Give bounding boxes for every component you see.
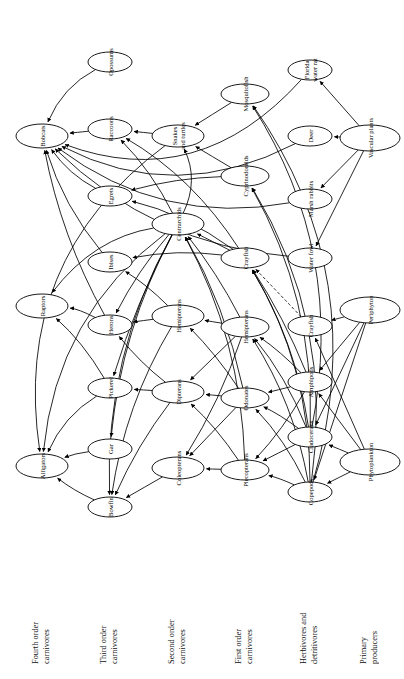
food-web-figure: BobcatsRaptorsAlligatorsOpossumsRaccoons… <box>0 0 404 679</box>
food-web-edge <box>190 407 236 455</box>
node-label: Hemipterans <box>242 310 249 344</box>
food-web-edge <box>70 308 95 317</box>
node-label: Egrets <box>107 187 114 204</box>
food-web-edge <box>253 339 308 482</box>
food-web-edge <box>134 131 153 133</box>
food-web-node[interactable]: Gar <box>88 439 132 459</box>
food-web-node[interactable]: Periphyton <box>340 295 400 325</box>
trophic-level-t1: First order carnivores <box>234 572 255 664</box>
food-web-node[interactable]: Raptors <box>16 294 68 318</box>
food-web-node[interactable]: Vascular plants <box>340 118 400 159</box>
food-web-node[interactable]: Opossums <box>88 48 132 76</box>
food-web-node[interactable]: Amphipods <box>288 366 332 397</box>
node-label: Hemipterans <box>175 299 182 333</box>
food-web-node[interactable]: Floridawater rat <box>288 58 332 81</box>
food-web-edge <box>48 396 97 452</box>
food-web-node[interactable]: Pickerel <box>88 377 132 399</box>
node-label: Pickerel <box>107 377 114 399</box>
food-web-edge <box>332 317 345 320</box>
node-label: Herons <box>107 315 114 334</box>
food-web-edge <box>133 253 222 258</box>
food-web-edge <box>196 147 232 168</box>
node-label: Raccoons <box>107 116 114 142</box>
food-web-edge <box>126 477 162 498</box>
food-web-node[interactable]: Mosquitofish <box>221 76 269 112</box>
food-web-edge <box>320 81 359 125</box>
food-web-edge <box>183 149 191 213</box>
trophic-level-hd: Herbivores and detritivores <box>299 572 320 664</box>
food-web-edge <box>328 472 351 483</box>
food-web-edge <box>119 337 165 383</box>
food-web-edge <box>321 150 358 188</box>
node-label: Coleopterans <box>175 450 182 485</box>
node-layer: BobcatsRaptorsAlligatorsOpossumsRaccoons… <box>16 48 400 517</box>
node-label: Gar <box>107 443 114 454</box>
food-web-node[interactable]: Copepods <box>288 478 332 505</box>
food-web-edge <box>205 320 223 323</box>
food-web-edge <box>329 445 348 453</box>
food-web-edge <box>269 475 295 484</box>
node-label: Periphyton <box>367 295 374 325</box>
food-web-edge <box>263 444 295 460</box>
node-label: Crayfish <box>307 314 314 337</box>
node-label: Water fowl <box>307 243 314 272</box>
food-web-edge <box>70 131 89 133</box>
food-web-node[interactable]: Coleopterans <box>152 450 204 485</box>
food-web-node[interactable]: Bowfin <box>88 496 132 517</box>
node-label: Opossums <box>107 48 114 76</box>
node-label: Bowfin <box>107 496 114 516</box>
food-web-edge <box>195 102 232 125</box>
node-label: Ibises <box>107 254 114 270</box>
node-label: Floridawater rat <box>303 58 317 81</box>
node-label: Marsh rabbits <box>307 180 314 217</box>
node-label: Plecopterans <box>242 453 249 487</box>
food-web-node[interactable]: Deer <box>288 126 332 146</box>
food-web-node[interactable]: Egrets <box>88 186 132 206</box>
node-label: Crayfish <box>242 246 249 269</box>
node-label: Dipterans <box>175 379 182 405</box>
food-web-node[interactable]: Marsh rabbits <box>288 180 332 217</box>
food-web-canvas: BobcatsRaptorsAlligatorsOpossumsRaccoons… <box>0 0 404 679</box>
food-web-edge <box>48 70 96 122</box>
food-web-node[interactable]: Bobcats <box>16 124 68 148</box>
food-web-node[interactable]: Alligators <box>16 452 68 479</box>
food-web-node[interactable]: Ibises <box>88 252 132 272</box>
food-web-edge <box>134 319 153 322</box>
food-web-node[interactable]: Cyprinodontids <box>221 155 269 196</box>
food-web-edge <box>132 177 221 190</box>
node-label: Phytoplankton <box>367 442 374 481</box>
node-label: Amphipods <box>307 366 314 397</box>
food-web-edge <box>185 237 245 460</box>
food-web-node[interactable]: Centrarchids <box>152 207 204 241</box>
food-web-edge <box>58 478 95 500</box>
trophic-level-t3: Third order carnivores <box>99 572 120 664</box>
food-web-node[interactable]: Snakesand turtles <box>152 122 204 150</box>
node-label: Cyprinodontids <box>242 155 249 196</box>
food-web-edge <box>191 336 236 380</box>
food-web-node[interactable]: Hemipterans <box>152 299 204 333</box>
food-web-edge <box>134 389 152 390</box>
node-label: Mosquitofish <box>242 76 249 112</box>
food-web-node[interactable]: Odonates <box>221 385 269 410</box>
food-web-node[interactable]: Crayfish <box>288 314 332 337</box>
food-web-node[interactable]: Herons <box>88 315 132 335</box>
node-label: Alligators <box>39 452 46 479</box>
node-label: Raptors <box>39 295 46 316</box>
food-web-node[interactable]: Raccoons <box>88 116 132 142</box>
trophic-level-t2: Second order carnivores <box>167 572 188 664</box>
node-label: Centrarchids <box>175 207 182 241</box>
food-web-node[interactable]: Phytoplankton <box>340 442 400 481</box>
node-label: Bobcats <box>39 125 46 147</box>
food-web-node[interactable]: Plecopterans <box>221 453 269 487</box>
node-label: Deer <box>307 129 314 143</box>
food-web-node[interactable]: Water fowl <box>288 243 332 272</box>
node-label: Odonates <box>242 385 249 410</box>
food-web-edge <box>55 149 288 256</box>
node-label: Vascular plants <box>367 118 374 159</box>
food-web-node[interactable]: Dipterans <box>152 379 204 405</box>
food-web-edge <box>65 452 89 458</box>
node-label: Cladocerans <box>307 420 314 453</box>
trophic-level-t4: Fourth order carnivores <box>31 572 52 664</box>
trophic-level-pp: Primary producers <box>359 572 380 664</box>
node-label: Copepods <box>307 478 314 505</box>
